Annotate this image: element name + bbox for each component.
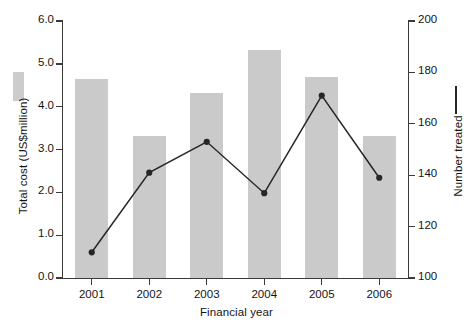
bar-2005 bbox=[305, 77, 338, 278]
y-axis-right-tick-label: 180 bbox=[418, 64, 458, 76]
y-axis-right-tick-label: 120 bbox=[418, 219, 458, 231]
y-axis-right-tick-label: 200 bbox=[418, 13, 458, 25]
y-axis-left-tick-label: 2.0 bbox=[14, 184, 54, 196]
y-axis-left-tick bbox=[56, 277, 62, 278]
x-axis-tick-label: 2001 bbox=[62, 288, 122, 300]
y-axis-right-tick bbox=[409, 226, 415, 227]
x-axis-tick bbox=[91, 279, 92, 285]
x-axis-tick bbox=[149, 279, 150, 285]
bar-2004 bbox=[248, 50, 281, 278]
y-axis-right-line bbox=[408, 20, 409, 279]
y-axis-left-tick bbox=[56, 149, 62, 150]
y-axis-left-tick bbox=[56, 63, 62, 64]
y-axis-left-tick-label: 5.0 bbox=[14, 56, 54, 68]
line-series-overlay bbox=[0, 0, 473, 331]
y-axis-right-tick bbox=[409, 277, 415, 278]
x-axis-tick bbox=[321, 279, 322, 285]
x-axis-tick bbox=[264, 279, 265, 285]
y-axis-right-tick-label: 140 bbox=[418, 167, 458, 179]
x-axis-tick-label: 2006 bbox=[349, 288, 409, 300]
y-axis-left-title: Total cost (US$million) bbox=[17, 56, 29, 256]
figure-chart: Total cost (US$million) Number treated F… bbox=[0, 0, 473, 331]
bar-2002 bbox=[133, 136, 166, 278]
y-axis-right-tick-label: 100 bbox=[418, 270, 458, 282]
y-axis-left-tick-label: 6.0 bbox=[14, 13, 54, 25]
figure-caption bbox=[8, 320, 468, 331]
y-axis-left-tick-label: 0.0 bbox=[14, 270, 54, 282]
y-axis-left-tick bbox=[56, 235, 62, 236]
x-axis-title: Financial year bbox=[0, 306, 473, 318]
bar-2006 bbox=[363, 136, 396, 278]
x-axis-tick-label: 2004 bbox=[234, 288, 294, 300]
y-axis-left-tick-label: 4.0 bbox=[14, 99, 54, 111]
y-axis-right-tick bbox=[409, 72, 415, 73]
y-axis-left-tick bbox=[56, 20, 62, 21]
bar-2001 bbox=[75, 79, 108, 278]
y-axis-left-tick-label: 1.0 bbox=[14, 227, 54, 239]
x-axis-tick bbox=[379, 279, 380, 285]
y-axis-right-tick bbox=[409, 123, 415, 124]
y-axis-right-tick-label: 160 bbox=[418, 116, 458, 128]
y-axis-left-tick bbox=[56, 192, 62, 193]
x-axis-tick bbox=[206, 279, 207, 285]
x-axis-tick-label: 2003 bbox=[177, 288, 237, 300]
y-axis-left-tick-label: 3.0 bbox=[14, 142, 54, 154]
x-axis-tick-label: 2002 bbox=[119, 288, 179, 300]
x-axis-line bbox=[62, 278, 410, 279]
y-axis-left-line bbox=[62, 20, 63, 279]
x-axis-tick-label: 2005 bbox=[292, 288, 352, 300]
y-axis-left-tick bbox=[56, 106, 62, 107]
y-axis-right-tick bbox=[409, 175, 415, 176]
bar-2003 bbox=[190, 93, 223, 278]
y-axis-right-tick bbox=[409, 20, 415, 21]
